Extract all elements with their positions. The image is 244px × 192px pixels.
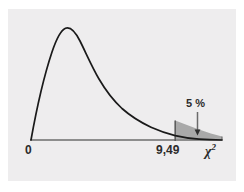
chi-square-distribution-figure: 0 9,49 χ2 5 % [0,0,244,192]
chi-square-chart [0,0,244,192]
chi-square-density-curve [31,28,222,140]
chi-exponent: 2 [212,142,217,152]
axis-label-chi-squared: χ2 [205,142,216,160]
axis-label-critical-value: 9,49 [156,143,179,157]
axis-label-origin: 0 [25,143,32,157]
tail-area-label: 5 % [186,97,205,109]
